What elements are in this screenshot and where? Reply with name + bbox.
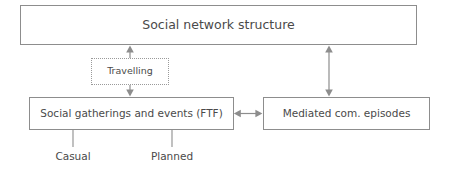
node-social-gatherings-label: Social gatherings and events (FTF) [40, 107, 222, 119]
diagram-canvas: Social network structure Travelling Soci… [0, 0, 450, 181]
node-social-network-structure-label: Social network structure [142, 18, 295, 32]
connector-travelling-to-gatherings [126, 85, 134, 97]
node-travelling-label: Travelling [107, 66, 153, 77]
connector-network-to-mediated [325, 46, 333, 97]
leaf-label-casual: Casual [55, 150, 90, 162]
connector-gatherings-to-mediated [234, 110, 263, 117]
node-mediated-episodes-label: Mediated com. episodes [283, 107, 411, 119]
node-mediated-episodes: Mediated com. episodes [263, 97, 430, 130]
node-travelling: Travelling [91, 58, 169, 85]
node-social-network-structure: Social network structure [20, 5, 417, 45]
connector-travelling-to-network [126, 46, 134, 59]
leaf-label-planned: Planned [151, 150, 193, 162]
node-social-gatherings: Social gatherings and events (FTF) [29, 97, 234, 130]
